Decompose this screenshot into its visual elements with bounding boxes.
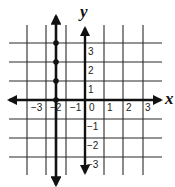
point-neg2-3 bbox=[53, 40, 59, 46]
x-axis-label: x bbox=[164, 89, 174, 108]
y-tick-neg1: −1 bbox=[87, 121, 99, 132]
x-tick-neg3: −3 bbox=[31, 102, 43, 113]
x-tick-1: 1 bbox=[107, 102, 113, 113]
y-axis-label: y bbox=[78, 2, 88, 21]
x-tick-neg2: −2 bbox=[50, 102, 62, 113]
y-tick-1: 1 bbox=[88, 84, 94, 95]
y-tick-neg2: −2 bbox=[87, 140, 99, 151]
y-tick-2: 2 bbox=[88, 65, 94, 76]
point-neg2-1 bbox=[53, 78, 59, 84]
x-tick-0: 0 bbox=[89, 102, 95, 113]
x-tick-2: 2 bbox=[126, 102, 132, 113]
x-tick-3: 3 bbox=[145, 102, 151, 113]
y-tick-neg3: −3 bbox=[87, 159, 99, 170]
coordinate-plane: y x −3 −2 −1 0 1 2 3 3 2 1 −1 −2 −3 bbox=[0, 0, 175, 187]
y-tick-3: 3 bbox=[88, 46, 94, 57]
x-tick-neg1: −1 bbox=[70, 102, 82, 113]
point-neg2-2 bbox=[53, 59, 59, 65]
